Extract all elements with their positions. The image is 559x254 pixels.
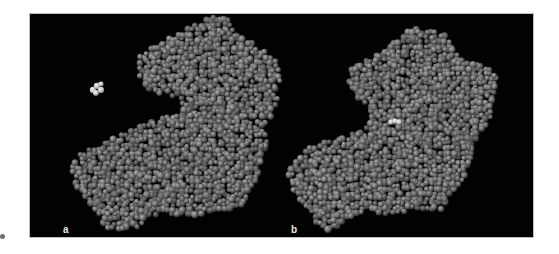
ligand-model-a bbox=[90, 81, 104, 96]
molecular-render bbox=[0, 0, 559, 254]
protein-model-a bbox=[70, 15, 283, 232]
figure: a b bbox=[0, 0, 559, 254]
margin-marker bbox=[0, 234, 5, 239]
protein-model-b bbox=[286, 26, 499, 233]
panel-label-b: b bbox=[291, 225, 297, 235]
panel-label-a: a bbox=[63, 225, 69, 235]
